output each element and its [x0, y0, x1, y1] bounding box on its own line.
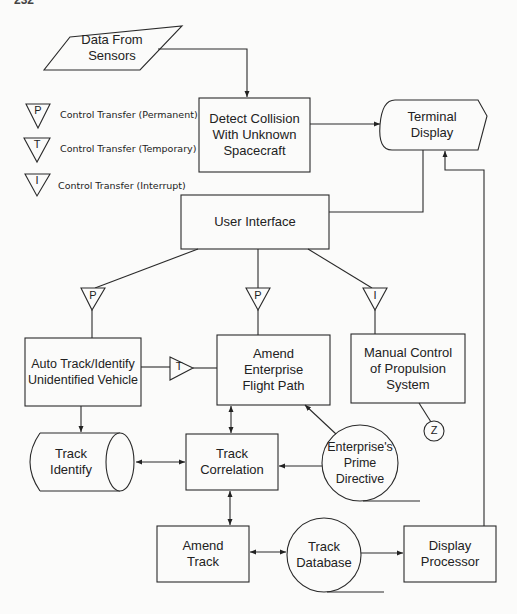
- transfer-symbol-i: I: [365, 289, 385, 301]
- legend-symbol-i: I: [27, 174, 47, 186]
- legend-symbol-p: P: [28, 104, 48, 116]
- node-terminal-display: Terminal Display: [384, 100, 480, 150]
- flowchart-canvas: [0, 0, 517, 614]
- node-amend-track: Amend Track: [157, 526, 249, 582]
- legend-label-permanent: Control Transfer (Permanent): [60, 109, 198, 120]
- legend-label-interrupt: Control Transfer (Interrupt): [58, 180, 186, 191]
- edge-ui-to-p-left: [95, 249, 198, 288]
- edge-ui-to-i: [308, 249, 372, 288]
- edge-manual-to-z: [419, 403, 431, 422]
- legend-symbol-t: T: [27, 138, 47, 150]
- node-user-interface: User Interface: [181, 195, 329, 249]
- node-prime-directive: Enterprise's Prime Directive: [322, 430, 398, 496]
- connector-symbol-z: Z: [424, 424, 444, 436]
- node-auto-track: Auto Track/Identify Unidentified Vehicle: [25, 338, 141, 406]
- transfer-symbol-t: T: [169, 360, 189, 372]
- node-track-correlation: Track Correlation: [186, 434, 278, 490]
- edge-sensors-to-detect: [158, 49, 247, 97]
- node-detect-collision: Detect Collision With Unknown Spacecraft: [199, 98, 310, 172]
- transfer-symbol-p-left: P: [83, 289, 103, 301]
- node-data-from-sensors: Data From Sensors: [62, 30, 162, 66]
- node-manual-control: Manual Control of Propulsion System: [351, 334, 465, 403]
- transfer-symbol-p-center: P: [248, 289, 268, 301]
- node-amend-flight-path: Amend Enterprise Flight Path: [217, 335, 330, 405]
- node-display-processor: Display Processor: [404, 526, 496, 582]
- node-track-database: Track Database: [287, 530, 361, 580]
- node-track-identify: Track Identify: [30, 433, 112, 491]
- legend-label-temporary: Control Transfer (Temporary): [60, 143, 196, 154]
